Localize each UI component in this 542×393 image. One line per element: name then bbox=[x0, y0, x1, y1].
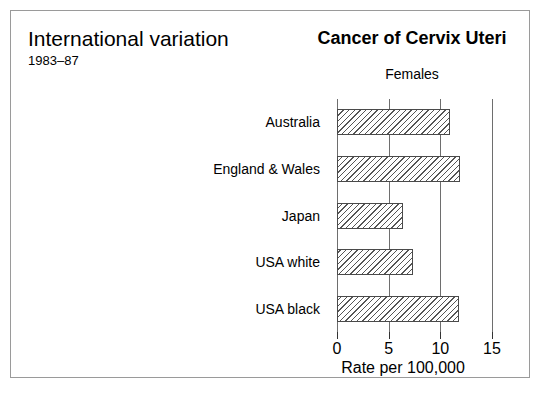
left-subtitle-years: 1983–87 bbox=[28, 53, 79, 68]
bar bbox=[337, 156, 460, 182]
tick-label: 5 bbox=[369, 340, 409, 358]
category-label: USA black bbox=[20, 302, 320, 316]
chart-figure: International variation 1983–87 Cancer o… bbox=[0, 0, 542, 393]
bar bbox=[337, 109, 450, 135]
tick-mark bbox=[440, 332, 441, 339]
category-label: England & Wales bbox=[20, 162, 320, 176]
x-axis-label: Rate per 100,000 bbox=[278, 359, 528, 377]
tick-mark bbox=[492, 332, 493, 339]
category-label: Australia bbox=[20, 115, 320, 129]
left-title: International variation bbox=[28, 27, 229, 51]
chart-subtitle-sex: Females bbox=[300, 66, 524, 82]
gridline-15 bbox=[492, 99, 493, 332]
category-label: Japan bbox=[20, 209, 320, 223]
chart-title: Cancer of Cervix Uteri bbox=[300, 28, 524, 49]
tick-mark bbox=[389, 332, 390, 339]
bar bbox=[337, 249, 413, 275]
bar bbox=[337, 296, 459, 322]
tick-label: 15 bbox=[472, 340, 512, 358]
tick-label: 10 bbox=[420, 340, 460, 358]
plot-area bbox=[337, 99, 492, 332]
category-label: USA white bbox=[20, 255, 320, 269]
value-axis: 051015 bbox=[337, 332, 492, 362]
tick-mark bbox=[337, 332, 338, 339]
tick-label: 0 bbox=[317, 340, 357, 358]
category-axis-labels: AustraliaEngland & WalesJapanUSA whiteUS… bbox=[20, 99, 320, 332]
bar bbox=[337, 203, 403, 229]
